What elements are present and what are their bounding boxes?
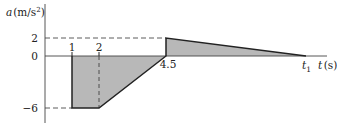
acceleration-time-graph: a(m/s2) 2 0 −6 1 2 4.5 t1 t(s) xyxy=(0,0,337,131)
x-tick-2: 2 xyxy=(96,41,103,53)
negative-area-region xyxy=(72,56,166,108)
t1-label: t1 xyxy=(302,59,311,74)
x-tick-4-5: 4.5 xyxy=(160,58,177,70)
x-tick-1: 1 xyxy=(69,41,76,53)
y-tick-minus6: −6 xyxy=(23,102,39,114)
x-axis-label: t(s) xyxy=(318,59,337,71)
y-tick-2: 2 xyxy=(31,32,38,44)
y-tick-0: 0 xyxy=(31,50,38,62)
y-axis-label: a(m/s2) xyxy=(6,6,45,18)
